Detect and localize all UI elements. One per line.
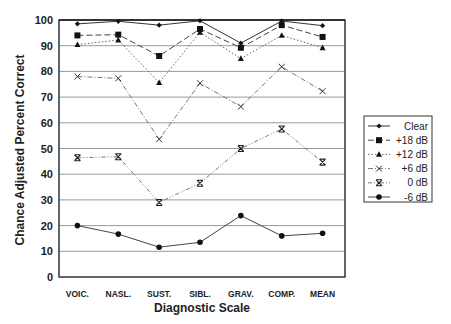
- data-point-marker: [115, 32, 121, 38]
- y-tick-label: 80: [41, 65, 53, 77]
- series-6-db: [74, 64, 325, 142]
- data-point-marker: [238, 55, 244, 61]
- x-tick-label: NASL.: [106, 289, 132, 299]
- y-tick-label: 100: [35, 14, 53, 26]
- data-point-marker: [279, 233, 285, 239]
- y-tick-label: 50: [41, 143, 53, 155]
- data-point-marker: [238, 104, 244, 110]
- x-tick-label: VOIC.: [66, 289, 89, 299]
- data-point-marker: [156, 80, 162, 86]
- legend-label: -6 dB: [404, 192, 428, 203]
- data-point-marker: [157, 23, 162, 28]
- data-point-marker: [75, 21, 80, 26]
- series-6-db: [75, 213, 326, 250]
- series-0-db: [74, 126, 325, 206]
- data-point-marker: [197, 18, 202, 23]
- legend-label: +18 dB: [396, 135, 428, 146]
- data-point-marker: [115, 75, 121, 81]
- data-point-marker: [320, 159, 326, 165]
- y-tick-label: 30: [41, 194, 53, 206]
- data-point-marker: [376, 194, 382, 200]
- legend-label: Clear: [404, 121, 429, 132]
- data-point-marker: [320, 231, 326, 237]
- series-line: [77, 129, 322, 203]
- y-axis-title: Chance Adjusted Percent Correct: [13, 55, 27, 246]
- series-line: [77, 67, 322, 139]
- data-point-marker: [156, 53, 162, 59]
- data-point-marker: [197, 180, 203, 186]
- data-point-marker: [115, 231, 121, 237]
- data-series: [74, 18, 325, 250]
- gridlines: [59, 46, 345, 252]
- series-line: [77, 32, 322, 82]
- x-axis-category-labels: VOIC.NASL.SUST.SIBL.GRAV.COMP.MEAN: [66, 289, 335, 299]
- legend: Clear+18 dB+12 dB+6 dB0 dB-6 dB: [364, 116, 432, 203]
- line-chart: 0102030405060708090100 VOIC.NASL.SUST.SI…: [0, 0, 451, 324]
- data-point-marker: [75, 223, 81, 229]
- legend-label: +6 dB: [402, 163, 429, 174]
- data-point-marker: [279, 22, 285, 28]
- x-tick-label: COMP.: [268, 289, 295, 299]
- data-point-marker: [376, 137, 382, 143]
- x-tick-label: SIBL.: [189, 289, 211, 299]
- data-point-marker: [238, 45, 244, 51]
- data-point-marker: [156, 136, 162, 142]
- x-tick-label: GRAV.: [228, 289, 254, 299]
- data-point-marker: [156, 244, 162, 250]
- y-tick-label: 70: [41, 91, 53, 103]
- y-tick-label: 0: [47, 271, 53, 283]
- data-point-marker: [115, 37, 121, 43]
- series-18-db: [74, 22, 325, 59]
- data-point-marker: [238, 213, 244, 219]
- data-point-marker: [320, 23, 325, 28]
- data-point-marker: [279, 64, 285, 70]
- x-tick-label: SUST.: [147, 289, 171, 299]
- legend-label: +12 dB: [396, 149, 428, 160]
- data-point-marker: [279, 32, 285, 38]
- data-point-marker: [279, 126, 285, 132]
- y-tick-label: 10: [41, 245, 53, 257]
- x-axis-title: Diagnostic Scale: [154, 301, 250, 315]
- y-tick-label: 20: [41, 220, 53, 232]
- y-tick-label: 60: [41, 117, 53, 129]
- data-point-marker: [197, 80, 203, 86]
- y-tick-label: 40: [41, 168, 53, 180]
- data-point-marker: [320, 34, 326, 40]
- y-tick-label: 90: [41, 40, 53, 52]
- data-point-marker: [197, 240, 203, 246]
- legend-label: 0 dB: [407, 177, 428, 188]
- y-axis-ticks: 0102030405060708090100: [35, 14, 53, 283]
- series-12-db: [74, 29, 325, 85]
- data-point-marker: [74, 41, 80, 47]
- data-point-marker: [320, 88, 326, 94]
- data-point-marker: [74, 32, 80, 38]
- x-tick-label: MEAN: [310, 289, 335, 299]
